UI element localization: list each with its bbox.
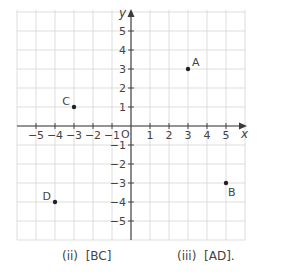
x-tick-label: −2 xyxy=(85,129,101,142)
y-tick-label: −2 xyxy=(110,158,126,171)
axes: xyO xyxy=(17,6,249,240)
y-tick-label: 4 xyxy=(119,44,126,57)
point-label-c: C xyxy=(62,95,70,108)
y-tick-label: 2 xyxy=(119,82,126,95)
x-tick-label: 1 xyxy=(147,129,154,142)
x-tick-label: −5 xyxy=(28,129,44,142)
x-axis-label: x xyxy=(240,127,249,141)
point-a xyxy=(186,67,190,71)
x-tick-label: −4 xyxy=(47,129,63,142)
y-axis-arrow-icon xyxy=(128,9,135,17)
point-c xyxy=(72,105,76,109)
point-label-d: D xyxy=(43,190,51,203)
caption-ii: (ii) [BC] xyxy=(62,249,111,263)
x-tick-label: −3 xyxy=(66,129,82,142)
y-tick-label: −3 xyxy=(110,177,126,190)
y-tick-label: 3 xyxy=(119,63,126,76)
point-b xyxy=(224,181,228,185)
y-tick-label: 1 xyxy=(119,101,126,114)
y-tick-label: −5 xyxy=(110,215,126,228)
x-tick-label: 2 xyxy=(166,129,173,142)
y-axis-label: y xyxy=(118,6,127,20)
x-tick-label: 3 xyxy=(185,129,192,142)
point-label-b: B xyxy=(228,186,236,199)
coordinate-grid: xyO −5−4−3−2−112345−5−4−3−2−112345 ABCD xyxy=(0,0,290,277)
point-label-a: A xyxy=(192,56,200,69)
y-tick-label: 5 xyxy=(119,25,126,38)
point-d xyxy=(53,200,57,204)
y-tick-label: −1 xyxy=(110,139,126,152)
x-tick-label: 5 xyxy=(223,129,230,142)
x-tick-label: 4 xyxy=(204,129,211,142)
y-tick-label: −4 xyxy=(110,196,126,209)
caption-iii: (iii) [AD]. xyxy=(177,249,235,263)
